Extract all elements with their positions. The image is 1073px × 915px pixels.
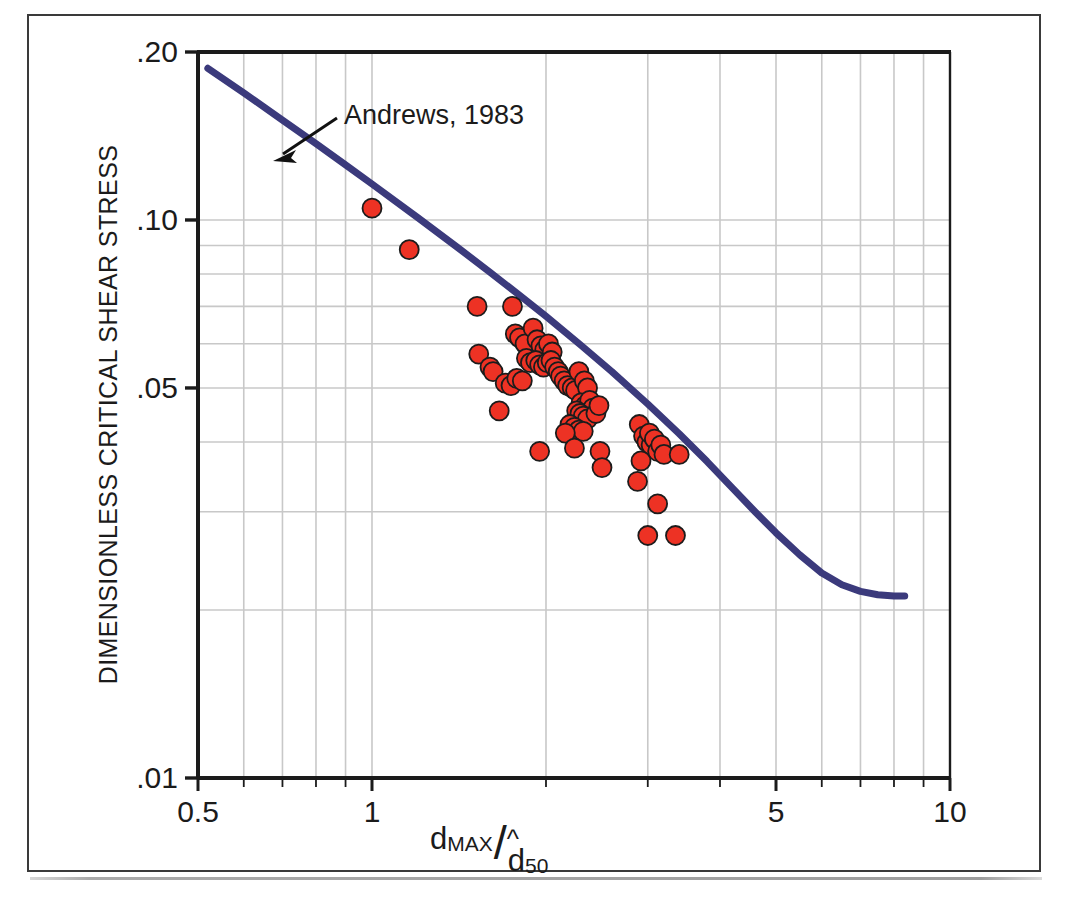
data-point xyxy=(565,439,584,458)
x-axis-denominator: ^d50 xyxy=(508,843,549,879)
data-point xyxy=(628,472,647,491)
curve-annotation-label: Andrews, 1983 xyxy=(344,100,524,131)
x-axis-title: dMAX/^d50 xyxy=(430,805,548,860)
y-tick-label: .05 xyxy=(136,371,178,404)
y-tick-label: .10 xyxy=(136,203,178,236)
data-point xyxy=(638,526,657,545)
y-tick-label: .20 xyxy=(136,35,178,68)
figure-container: .20.10.05.010.51510 DIMENSIONLESS CRITIC… xyxy=(0,0,1073,915)
fit-curve-group xyxy=(208,68,905,596)
data-points-group xyxy=(363,199,689,545)
data-point xyxy=(400,240,419,259)
x-tick-label: 1 xyxy=(364,795,381,828)
data-point xyxy=(468,297,487,316)
tick-labels-group: .20.10.05.010.51510 xyxy=(136,35,966,828)
data-point xyxy=(589,396,608,415)
data-point xyxy=(503,297,522,316)
data-point xyxy=(666,526,685,545)
y-axis-title: DIMENSIONLESS CRITICAL SHEAR STRESS xyxy=(94,95,123,735)
x-axis-fraction-slash: / xyxy=(493,815,508,870)
x-axis-hat-accent: ^ xyxy=(507,826,519,852)
x-axis-numerator-symbol: d xyxy=(430,821,447,856)
x-tick-label: 5 xyxy=(768,795,785,828)
chart-plot-area: .20.10.05.010.51510 xyxy=(0,0,1073,915)
data-point xyxy=(490,401,509,420)
y-tick-label: .01 xyxy=(136,761,178,794)
data-point xyxy=(530,442,549,461)
x-axis-denominator-hatwrap: ^d xyxy=(508,843,525,879)
x-axis-numerator: dMAX xyxy=(430,821,493,857)
data-point xyxy=(631,451,650,470)
data-point xyxy=(670,445,689,464)
andrews-fit-curve xyxy=(208,68,905,596)
data-point xyxy=(648,494,667,513)
data-point xyxy=(593,458,612,477)
data-point xyxy=(513,371,532,390)
data-point xyxy=(363,199,382,218)
x-tick-label: 0.5 xyxy=(177,795,219,828)
x-tick-label: 10 xyxy=(933,795,966,828)
x-axis-denominator-subscript: 50 xyxy=(525,854,548,877)
x-axis-numerator-subscript: MAX xyxy=(447,832,493,855)
